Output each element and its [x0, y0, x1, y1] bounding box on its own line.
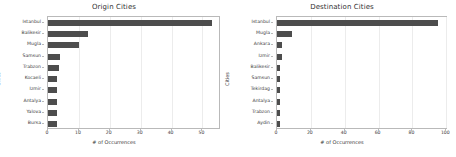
x-tick-mark — [140, 129, 141, 131]
y-tick-mark — [271, 78, 273, 79]
y-tick-mark — [42, 89, 44, 90]
panel-origin-cities: Origin Cities Cities IstanbulBalikesirMu… — [0, 0, 228, 157]
x-tick-mark — [78, 129, 79, 131]
figure-two-bar-charts: Origin Cities Cities IstanbulBalikesirMu… — [0, 0, 456, 157]
y-tick-label: Samsun — [252, 76, 270, 81]
gridline — [446, 17, 447, 128]
bar — [277, 76, 280, 82]
bar — [277, 42, 282, 48]
y-tick-labels-origin: IstanbulBalikesirMuglaSamsunTrabzonKocae… — [0, 16, 44, 129]
x-tick-label: 40 — [341, 131, 347, 136]
y-tick-label: Balikesir — [22, 31, 41, 36]
bars-destination — [277, 17, 446, 128]
x-tick-mark — [201, 129, 202, 131]
bar-row — [48, 17, 212, 28]
bar-row — [277, 40, 282, 51]
bar — [277, 121, 280, 127]
bar-row — [277, 62, 280, 73]
y-tick-label: Izmir — [259, 53, 270, 58]
bar-row — [277, 107, 280, 118]
x-tick-label: 0 — [46, 131, 49, 136]
y-tick-mark — [271, 22, 273, 23]
chart-title-origin: Origin Cities — [0, 3, 228, 11]
bar-row — [277, 28, 292, 39]
bar-row — [48, 51, 60, 62]
x-tick-mark — [411, 129, 412, 131]
y-tick-label: Mugla — [256, 31, 270, 36]
bar — [48, 54, 60, 60]
bar-row — [48, 107, 57, 118]
x-tick-label: 20 — [106, 131, 112, 136]
y-tick-label: Balikesir — [251, 65, 270, 70]
bar-row — [277, 85, 280, 96]
bar-row — [48, 40, 79, 51]
x-tick-mark — [109, 129, 110, 131]
x-tick-mark — [171, 129, 172, 131]
y-tick-label: Samsun — [23, 53, 41, 58]
plot-area-destination — [276, 16, 447, 129]
y-tick-mark — [271, 123, 273, 124]
bar-row — [48, 62, 59, 73]
y-tick-label: Aydin — [257, 121, 270, 126]
y-tick-mark — [271, 67, 273, 68]
panel-destination-cities: Destination Cities Cities IstanbulMuglaA… — [228, 0, 456, 157]
x-tick-label: 40 — [168, 131, 174, 136]
y-tick-mark — [271, 44, 273, 45]
x-tick-label: 0 — [275, 131, 278, 136]
bar — [48, 76, 57, 82]
y-tick-label: Kocaeli — [25, 76, 41, 81]
y-tick-label: Trabzon — [23, 65, 41, 70]
x-tick-label: 80 — [409, 131, 415, 136]
bar — [277, 20, 438, 26]
x-tick-label: 100 — [441, 131, 450, 136]
x-axis-label-destination: # of Occurrences — [228, 139, 456, 145]
x-tick-mark — [47, 129, 48, 131]
bars-origin — [48, 17, 219, 128]
x-tick-mark — [310, 129, 311, 131]
y-tick-label: Yalova — [26, 110, 41, 115]
y-tick-labels-destination: IstanbulMuglaAnkaraIzmirBalikesirSamsunT… — [229, 16, 273, 129]
y-tick-mark — [42, 112, 44, 113]
bar-row — [277, 17, 438, 28]
bar — [48, 31, 88, 37]
y-tick-label: Mugla — [27, 42, 41, 47]
bar — [277, 31, 292, 37]
y-tick-mark — [42, 101, 44, 102]
x-tick-label: 60 — [375, 131, 381, 136]
bar-row — [48, 96, 57, 107]
y-tick-mark — [271, 56, 273, 57]
bar-row — [277, 96, 280, 107]
y-tick-mark — [42, 22, 44, 23]
bar — [277, 99, 280, 105]
bar-row — [48, 85, 57, 96]
y-tick-mark — [42, 123, 44, 124]
y-tick-mark — [271, 112, 273, 113]
y-tick-mark — [271, 101, 273, 102]
x-tick-label: 30 — [137, 131, 143, 136]
y-tick-label: Antalya — [24, 98, 41, 103]
bar — [277, 65, 280, 71]
bar-row — [48, 119, 57, 130]
bar — [277, 87, 280, 93]
plot-area-origin — [47, 16, 220, 129]
y-tick-mark — [42, 56, 44, 57]
x-tick-label: 10 — [75, 131, 81, 136]
y-tick-label: Antalya — [253, 98, 270, 103]
y-tick-label: Tekirdag — [251, 87, 270, 92]
chart-title-destination: Destination Cities — [228, 3, 456, 11]
bar-row — [277, 74, 280, 85]
bar — [48, 121, 57, 127]
bar-row — [277, 119, 280, 130]
y-tick-label: Istanbul — [252, 19, 270, 24]
y-tick-mark — [42, 67, 44, 68]
x-tick-label: 50 — [199, 131, 205, 136]
y-tick-mark — [271, 89, 273, 90]
y-tick-label: Izmir — [30, 87, 41, 92]
x-tick-mark — [378, 129, 379, 131]
x-axis-label-origin: # of Occurrences — [0, 139, 228, 145]
bar-row — [48, 74, 57, 85]
x-tick-mark — [445, 129, 446, 131]
y-tick-label: Bursa — [28, 121, 41, 126]
y-tick-mark — [42, 44, 44, 45]
y-tick-label: Ankara — [254, 42, 270, 47]
